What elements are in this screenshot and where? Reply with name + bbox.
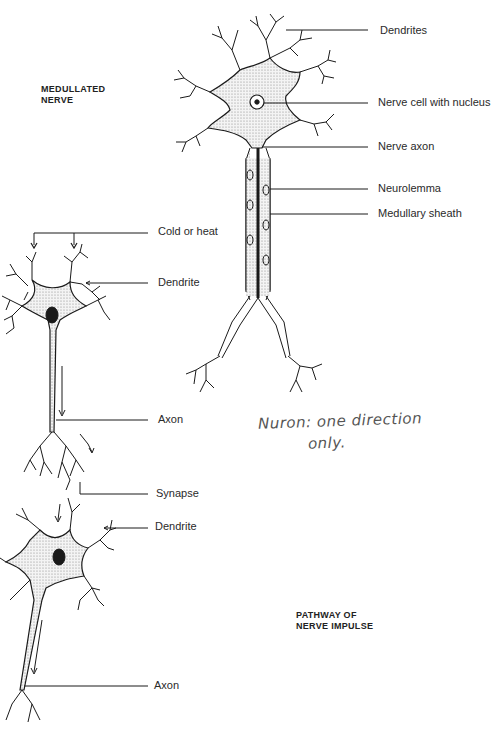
handwritten-note-line-2: only. xyxy=(308,433,346,452)
heading-line-1: MEDULLATED xyxy=(41,84,105,95)
pathway-heading: PATHWAY OF NERVE IMPULSE xyxy=(296,610,373,632)
label-dendrite-1: Dendrite xyxy=(158,276,200,289)
pathway-neuron-1 xyxy=(2,233,148,494)
pathway-neuron-2 xyxy=(0,498,148,722)
label-nerve-axon: Nerve axon xyxy=(378,140,434,153)
label-cold-or-heat: Cold or heat xyxy=(158,225,218,238)
label-neurolemma: Neurolemma xyxy=(378,182,441,195)
label-axon-1: Axon xyxy=(158,413,183,426)
label-dendrites: Dendrites xyxy=(380,24,427,37)
medullated-neuron xyxy=(174,14,368,392)
heading-line-2: NERVE xyxy=(41,95,105,106)
label-dendrite-2: Dendrite xyxy=(155,520,197,533)
label-nerve-cell-with-nucleus: Nerve cell with nucleus xyxy=(378,96,491,109)
label-axon-2: Axon xyxy=(154,679,179,692)
medullated-nerve-heading: MEDULLATED NERVE xyxy=(41,84,105,106)
neuron-illustrations xyxy=(0,0,504,730)
label-medullary-sheath: Medullary sheath xyxy=(378,207,462,220)
neuron-diagram-page: MEDULLATED NERVE PATHWAY OF NERVE IMPULS… xyxy=(0,0,504,730)
heading-line-2: NERVE IMPULSE xyxy=(296,621,373,632)
heading-line-1: PATHWAY OF xyxy=(296,610,373,621)
label-synapse: Synapse xyxy=(156,487,199,500)
